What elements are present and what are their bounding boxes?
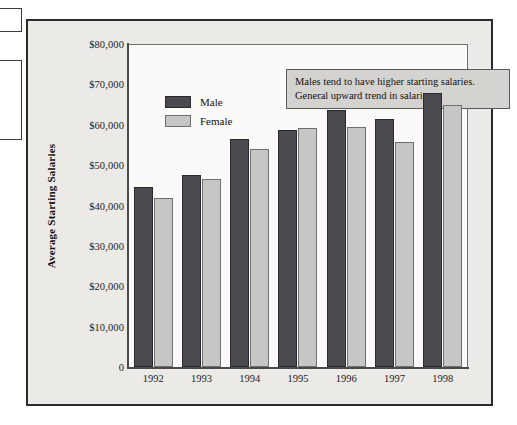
bar-group — [129, 44, 177, 367]
bar-female-1995 — [298, 128, 317, 367]
x-axis-tick-label: 1998 — [432, 373, 453, 384]
bar-male-1998 — [423, 93, 442, 367]
bar-female-1994 — [250, 149, 269, 367]
bar-male-1992 — [134, 187, 153, 367]
bar-male-1993 — [182, 175, 201, 367]
legend-swatch-female-icon — [165, 115, 191, 127]
x-axis-tick-label: 1993 — [191, 373, 212, 384]
x-axis-tick-label: 1994 — [239, 373, 260, 384]
legend-item-male: Male — [165, 96, 232, 108]
y-axis-tick-label: $60,000 — [32, 119, 124, 130]
page-edge-artifact-bottom — [0, 60, 22, 140]
legend-item-female: Female — [165, 115, 232, 127]
y-axis-tick-label: 0 — [32, 362, 124, 373]
bar-male-1995 — [278, 130, 297, 367]
bar-female-1992 — [154, 198, 173, 367]
bar-group — [226, 44, 274, 367]
page-edge-artifact-top — [0, 8, 22, 32]
y-axis-tick-label: $80,000 — [32, 39, 124, 50]
bar-male-1994 — [230, 139, 249, 367]
chart-figure-frame: $80,000$70,000$60,000$50,000$40,000$30,0… — [26, 19, 493, 406]
x-axis-line — [127, 367, 469, 369]
legend-label-female: Female — [200, 115, 232, 127]
y-axis-title: Average Starting Salaries — [45, 144, 57, 269]
bar-female-1998 — [443, 105, 462, 367]
legend-swatch-male-icon — [165, 96, 191, 108]
bar-male-1996 — [327, 110, 346, 367]
legend-label-male: Male — [200, 96, 223, 108]
y-axis-tick-label: $20,000 — [32, 281, 124, 292]
chart-legend: Male Female — [165, 96, 232, 134]
annotation-line-2: General upward trend in salaries. — [295, 89, 501, 103]
x-axis-tick-label: 1995 — [288, 373, 309, 384]
x-axis-tick-labels: 1992199319941995199619971998 — [129, 373, 467, 393]
bar-female-1997 — [395, 142, 414, 367]
y-axis-tick-labels: $80,000$70,000$60,000$50,000$40,000$30,0… — [28, 21, 124, 404]
annotation-callout: Males tend to have higher starting salar… — [286, 69, 510, 109]
bar-male-1997 — [375, 119, 394, 367]
y-axis-tick-label: $70,000 — [32, 79, 124, 90]
x-axis-tick-label: 1997 — [384, 373, 405, 384]
x-axis-tick-label: 1996 — [336, 373, 357, 384]
bar-group — [177, 44, 225, 367]
bar-female-1993 — [202, 179, 221, 367]
y-axis-tick-label: $10,000 — [32, 321, 124, 332]
bar-female-1996 — [347, 127, 366, 367]
annotation-line-1: Males tend to have higher starting salar… — [295, 75, 501, 89]
x-axis-tick-label: 1992 — [143, 373, 164, 384]
